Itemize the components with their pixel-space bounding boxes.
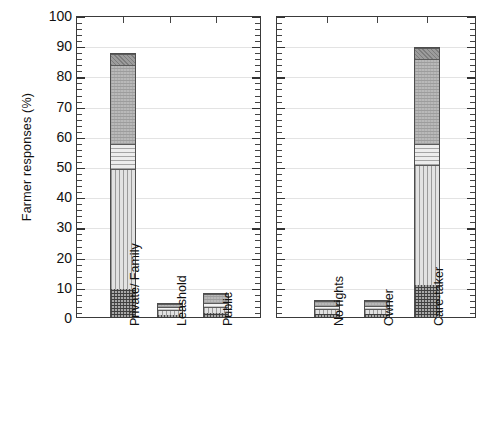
y-minor-tick: [77, 313, 82, 314]
y-minor-tick: [77, 144, 82, 145]
y-tick-label: 30: [38, 220, 72, 234]
y-minor-tick: [277, 41, 282, 42]
y-minor-tick: [77, 83, 82, 84]
y-minor-tick-right: [255, 132, 260, 133]
gridline: [277, 228, 475, 229]
y-minor-tick-right: [470, 180, 475, 181]
y-minor-tick-right: [255, 53, 260, 54]
y-minor-tick-right: [255, 277, 260, 278]
y-minor-tick-right: [255, 234, 260, 235]
y-minor-tick-right: [470, 222, 475, 223]
y-minor-tick: [77, 126, 82, 127]
y-tick-label: 0: [38, 311, 72, 325]
y-minor-tick-right: [255, 120, 260, 121]
y-minor-tick: [77, 234, 82, 235]
y-major-tick: [277, 259, 285, 260]
y-minor-tick-right: [255, 162, 260, 163]
y-minor-tick-right: [255, 247, 260, 248]
y-minor-tick: [77, 222, 82, 223]
gridline: [77, 289, 260, 290]
panel-tree-rights: [276, 16, 476, 318]
y-minor-tick-right: [255, 295, 260, 296]
y-minor-tick-right: [470, 102, 475, 103]
y-minor-tick: [277, 204, 282, 205]
y-minor-tick-right: [470, 313, 475, 314]
y-minor-tick-right: [470, 265, 475, 266]
y-minor-tick: [77, 180, 82, 181]
y-minor-tick-right: [255, 150, 260, 151]
gridline: [77, 47, 260, 48]
gridline: [277, 138, 475, 139]
gridline: [77, 228, 260, 229]
y-minor-tick: [77, 253, 82, 254]
y-minor-tick-right: [255, 192, 260, 193]
y-major-tick: [77, 17, 85, 18]
y-major-tick: [77, 198, 85, 199]
bar-segment: [415, 144, 439, 165]
y-minor-tick-right: [470, 59, 475, 60]
y-minor-tick: [77, 204, 82, 205]
y-minor-tick: [277, 247, 282, 248]
y-minor-tick: [277, 83, 282, 84]
y-minor-tick-right: [470, 253, 475, 254]
y-major-tick: [277, 108, 285, 109]
y-minor-tick: [77, 71, 82, 72]
y-major-tick: [77, 138, 85, 139]
gridline: [277, 259, 475, 260]
y-minor-tick: [277, 186, 282, 187]
y-minor-tick: [77, 210, 82, 211]
y-minor-tick: [77, 277, 82, 278]
y-major-tick-right: [252, 228, 260, 229]
y-minor-tick-right: [255, 114, 260, 115]
y-minor-tick-right: [255, 65, 260, 66]
gridline: [77, 198, 260, 199]
y-major-tick-right: [252, 138, 260, 139]
y-minor-tick-right: [470, 204, 475, 205]
x-tick-top: [377, 17, 378, 23]
y-minor-tick: [277, 71, 282, 72]
y-minor-tick-right: [255, 240, 260, 241]
y-minor-tick: [277, 53, 282, 54]
bar-segment: [415, 48, 439, 59]
gridline: [277, 108, 475, 109]
y-minor-tick: [277, 102, 282, 103]
y-minor-tick: [277, 35, 282, 36]
y-tick-label: 100: [38, 9, 72, 23]
y-minor-tick: [77, 35, 82, 36]
y-minor-tick: [277, 222, 282, 223]
y-minor-tick: [277, 59, 282, 60]
y-minor-tick: [277, 192, 282, 193]
y-minor-tick-right: [470, 210, 475, 211]
y-minor-tick: [277, 144, 282, 145]
y-major-tick: [77, 47, 85, 48]
y-minor-tick-right: [255, 283, 260, 284]
y-minor-tick-right: [470, 132, 475, 133]
y-axis-title: Farmer responses (%): [20, 62, 34, 252]
gridline: [77, 108, 260, 109]
y-minor-tick-right: [255, 41, 260, 42]
y-minor-tick: [277, 162, 282, 163]
y-minor-tick: [77, 102, 82, 103]
y-minor-tick: [77, 96, 82, 97]
y-minor-tick-right: [470, 301, 475, 302]
bar-segment: [111, 54, 135, 65]
x-category-label: No rights: [332, 276, 346, 326]
y-minor-tick-right: [255, 265, 260, 266]
y-minor-tick: [277, 132, 282, 133]
y-minor-tick: [77, 29, 82, 30]
y-major-tick-right: [467, 77, 475, 78]
x-tick-top: [170, 17, 171, 23]
y-minor-tick: [277, 180, 282, 181]
y-minor-tick: [277, 29, 282, 30]
y-minor-tick-right: [470, 65, 475, 66]
y-minor-tick: [277, 283, 282, 284]
y-major-tick: [277, 47, 285, 48]
y-tick-label: 70: [38, 100, 72, 114]
y-minor-tick-right: [255, 83, 260, 84]
y-minor-tick: [277, 216, 282, 217]
y-minor-tick: [277, 301, 282, 302]
y-minor-tick: [277, 307, 282, 308]
y-major-tick-right: [467, 198, 475, 199]
y-minor-tick: [77, 240, 82, 241]
panel-land-tenure: [76, 16, 261, 318]
